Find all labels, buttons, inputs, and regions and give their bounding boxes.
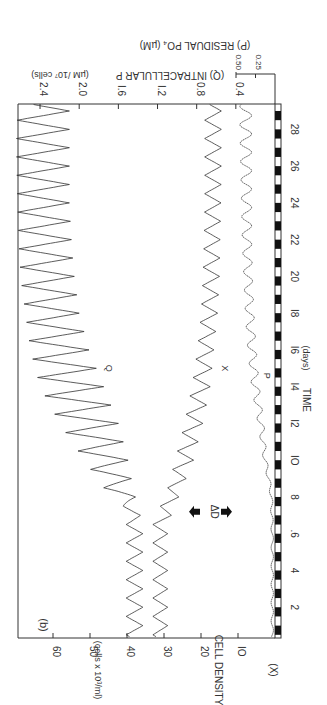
time-tick-label: 8 <box>289 494 300 500</box>
curve-x <box>153 105 221 637</box>
time-tick-label: I4 <box>289 383 300 392</box>
time-tick-label: I8 <box>289 309 300 318</box>
q-axis-tick-label: 2.0 <box>77 82 88 96</box>
time-tick-label: 20 <box>289 271 300 283</box>
dark-period-block <box>275 368 281 377</box>
dark-period-block <box>275 442 281 451</box>
time-tick-label: 4 <box>289 568 300 574</box>
curve-q <box>17 105 143 637</box>
q-axis-title: (Q) INTRACELLULAR P <box>115 70 224 81</box>
dark-period-block <box>275 626 281 635</box>
data-curves <box>17 105 274 637</box>
curve-label-x: X <box>220 365 230 371</box>
curve-label-q: Q <box>104 365 114 372</box>
dark-period-block <box>275 423 281 432</box>
dark-period-block <box>275 166 281 175</box>
dark-period-block <box>275 460 281 469</box>
curve-label-p: P <box>262 373 272 379</box>
dark-period-block <box>275 129 281 138</box>
dark-period-block <box>275 350 281 359</box>
x-axis-units: (cells x 10³/ml) <box>93 641 103 700</box>
time-tick-label: IO <box>289 455 300 466</box>
p-axis-tick-label: 0.25 <box>254 54 263 70</box>
x-axis-tick-label: 30 <box>162 646 173 658</box>
arrow-left-icon <box>189 506 200 518</box>
dark-period-block <box>275 589 281 598</box>
rotated-chart-figure: 24.68IOI2I4I6I82022242628TIME(days)IO203… <box>0 0 327 705</box>
time-tick-label: .6 <box>289 530 300 539</box>
dark-period-block <box>275 240 281 249</box>
dark-period-block <box>275 111 281 120</box>
time-tick-label: 28 <box>289 124 300 136</box>
x-axis-title: CELL DENSITY <box>213 635 224 705</box>
arrow-right-icon <box>221 506 232 518</box>
x-axis-tick-label: 20 <box>199 646 210 658</box>
p-axis-title: (P) RESIDUAL PO₄ (µM) <box>140 40 251 51</box>
axis-labels: 24.68IOI2I4I6I82022242628TIME(days)IO203… <box>31 40 312 705</box>
dark-period-block <box>275 515 281 524</box>
dark-period-block <box>275 276 281 285</box>
q-axis-tick-label: I.2 <box>156 85 167 97</box>
q-axis-units: (µM /10⁷ cells) <box>31 70 88 80</box>
dark-period-block <box>275 570 281 579</box>
q-axis-tick-label: 0.4 <box>234 82 245 96</box>
curve-p <box>240 105 274 637</box>
dark-period-block <box>275 313 281 322</box>
time-tick-label: I6 <box>289 346 300 355</box>
dark-period-block <box>275 203 281 212</box>
time-tick-label: 24 <box>289 197 300 209</box>
dark-period-block <box>275 497 281 506</box>
x-axis-tick-label: 60 <box>51 646 62 658</box>
dark-period-block <box>275 148 281 157</box>
x-axis-id: (X) <box>268 663 279 676</box>
time-axis-title: TIME <box>301 388 312 412</box>
q-axis-tick-label: 2.4 <box>38 82 49 96</box>
x-axis-tick-label: 40 <box>125 646 136 658</box>
dark-period-block <box>275 332 281 341</box>
dark-period-block <box>275 479 281 488</box>
dark-period-block <box>275 258 281 267</box>
time-tick-label: 22 <box>289 234 300 246</box>
dark-period-block <box>275 552 281 561</box>
q-axis-tick-label: 0.8 <box>195 82 206 96</box>
q-axis-tick-label: I.6 <box>116 85 127 97</box>
dark-period-block <box>275 185 281 194</box>
light-dark-bar <box>275 104 281 638</box>
p-axis-tick-label: 0.50 <box>234 54 243 70</box>
dark-period-block <box>275 387 281 396</box>
x-axis-tick-label: IO <box>236 646 247 657</box>
time-tick-label: 2 <box>289 604 300 610</box>
time-tick-label: 26 <box>289 161 300 173</box>
dark-period-block <box>275 221 281 230</box>
time-tick-label: I2 <box>289 419 300 428</box>
delta-d-annotation: ΔD <box>209 505 220 519</box>
dark-period-block <box>275 607 281 616</box>
dark-period-block <box>275 295 281 304</box>
time-axis-units: (days) <box>301 345 311 370</box>
panel-label: (b) <box>38 618 50 631</box>
chart-canvas: 24.68IOI2I4I6I82022242628TIME(days)IO203… <box>0 0 327 705</box>
dark-period-block <box>275 405 281 414</box>
dark-period-block <box>275 534 281 543</box>
